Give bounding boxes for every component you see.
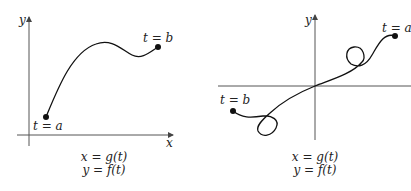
left-equation-y: y = f(t) [81, 163, 125, 177]
right-equation-x: x = g(t) [292, 150, 339, 164]
left-diagram: y x t = a t = b x = g(t) y = f(t) [17, 13, 173, 177]
right-start-label: t = a [382, 21, 411, 35]
left-y-axis-label: y [18, 13, 26, 27]
left-end-label: t = b [143, 31, 173, 45]
right-end-label: t = b [220, 93, 250, 107]
left-x-axis-label: x [166, 136, 173, 150]
left-parametric-curve [46, 42, 158, 117]
right-end-point [230, 108, 236, 114]
right-y-axis-label: y [304, 13, 312, 27]
left-start-label: t = a [33, 119, 63, 133]
left-equation-x: x = g(t) [81, 150, 128, 164]
right-equation-y: y = f(t) [292, 163, 336, 177]
parametric-curves-figure: y x t = a t = b x = g(t) y = f(t) y t = … [0, 0, 411, 191]
right-diagram: y t = a t = b x = g(t) y = f(t) [218, 13, 411, 177]
right-parametric-curve [233, 35, 395, 135]
